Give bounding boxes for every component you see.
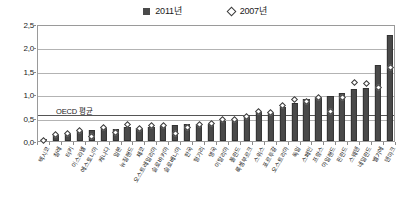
bar-group[interactable]	[145, 26, 157, 141]
x-axis-tick-label: 영국	[207, 145, 218, 158]
bar-group[interactable]	[336, 26, 348, 141]
bar-group[interactable]	[348, 26, 360, 141]
marker-2007[interactable]	[363, 80, 370, 87]
bar-group[interactable]	[360, 26, 372, 141]
bar-2011[interactable]	[303, 99, 309, 141]
bars-layer	[38, 26, 394, 141]
y-axis-tick-label: 2,5	[4, 21, 34, 30]
x-axis-tick-label: 터키	[64, 145, 75, 158]
bar-group[interactable]	[193, 26, 205, 141]
bar-2011[interactable]	[280, 107, 286, 141]
bar-group[interactable]	[98, 26, 110, 141]
bar-group[interactable]	[122, 26, 134, 141]
bar-group[interactable]	[157, 26, 169, 141]
bar-group[interactable]	[86, 26, 98, 141]
y-axis-tick-label: 0,0	[4, 138, 34, 147]
x-axis-tick-label: 한국	[183, 145, 194, 158]
bar-2011[interactable]	[268, 113, 274, 141]
y-axis-tick-label: 0,5	[4, 114, 34, 123]
bar-2011[interactable]	[315, 97, 321, 141]
bar-group[interactable]	[205, 26, 217, 141]
bar-group[interactable]	[372, 26, 384, 141]
bar-group[interactable]	[241, 26, 253, 141]
bar-group[interactable]	[133, 26, 145, 141]
plot-area: OECD 평균	[37, 25, 395, 142]
x-axis-tick-label: 독일	[291, 145, 302, 158]
bar-group[interactable]	[312, 26, 324, 141]
y-axis-tick-label: 2,0	[4, 44, 34, 53]
bar-group[interactable]	[384, 26, 396, 141]
x-axis-tick-label: 체코	[136, 145, 147, 158]
bar-2011[interactable]	[375, 65, 381, 141]
y-axis-tick-mark	[33, 25, 36, 26]
x-axis-tick-label: 일본	[112, 145, 123, 158]
bar-group[interactable]	[74, 26, 86, 141]
legend-item-2007: 2007년	[228, 7, 267, 16]
bar-2011[interactable]	[256, 112, 262, 141]
legend-label-2011: 2011년	[155, 7, 181, 16]
bar-group[interactable]	[169, 26, 181, 141]
bar-group[interactable]	[217, 26, 229, 141]
bar-2011[interactable]	[291, 103, 297, 141]
x-axis-labels: 멕시코칠레터키이스라엘에스토니아캐나다일본뉴질랜드체코오스트레일리아슬로바키아슬…	[37, 145, 395, 203]
y-axis-tick-mark	[33, 142, 36, 143]
bar-group[interactable]	[253, 26, 265, 141]
bar-group[interactable]	[62, 26, 74, 141]
x-axis-tick-label: 칠레	[52, 145, 63, 158]
bar-group[interactable]	[289, 26, 301, 141]
bar-group[interactable]	[301, 26, 313, 141]
x-axis-tick-label: 덴마크	[383, 145, 397, 163]
marker-2007[interactable]	[351, 79, 358, 86]
filled-square-icon	[143, 8, 150, 15]
x-axis-tick-label: 헝가리	[192, 145, 206, 163]
legend-item-2011: 2011년	[143, 7, 181, 16]
x-axis-tick-mark	[395, 142, 396, 145]
bar-group[interactable]	[38, 26, 50, 141]
bar-group[interactable]	[265, 26, 277, 141]
bar-2011[interactable]	[124, 127, 130, 141]
bar-group[interactable]	[50, 26, 62, 141]
bar-2011[interactable]	[232, 120, 238, 141]
legend-label-2007: 2007년	[240, 7, 267, 16]
bar-group[interactable]	[229, 26, 241, 141]
bar-2011[interactable]	[363, 88, 369, 141]
y-axis-tick-label: 1,0	[4, 91, 34, 100]
bar-2011[interactable]	[327, 96, 333, 141]
bar-group[interactable]	[181, 26, 193, 141]
bar-group[interactable]	[277, 26, 289, 141]
bar-2011[interactable]	[387, 35, 393, 141]
y-axis-tick-mark	[33, 48, 36, 49]
y-axis-tick-label: 1,5	[4, 67, 34, 76]
y-axis-tick-mark	[33, 95, 36, 96]
y-axis-tick-mark	[33, 119, 36, 120]
y-axis-tick-mark	[33, 72, 36, 73]
y-axis: 0,00,51,01,52,02,5	[0, 25, 34, 142]
bar-2011[interactable]	[220, 121, 226, 141]
chart-container: 2011년 2007년 0,00,51,01,52,02,5 OECD 평균 멕…	[0, 0, 410, 205]
bar-2011[interactable]	[351, 89, 357, 141]
bar-group[interactable]	[110, 26, 122, 141]
chart-legend: 2011년 2007년	[0, 3, 410, 19]
x-axis-tick-label: 멕시코	[37, 145, 51, 163]
bar-group[interactable]	[324, 26, 336, 141]
open-diamond-icon	[226, 6, 236, 16]
